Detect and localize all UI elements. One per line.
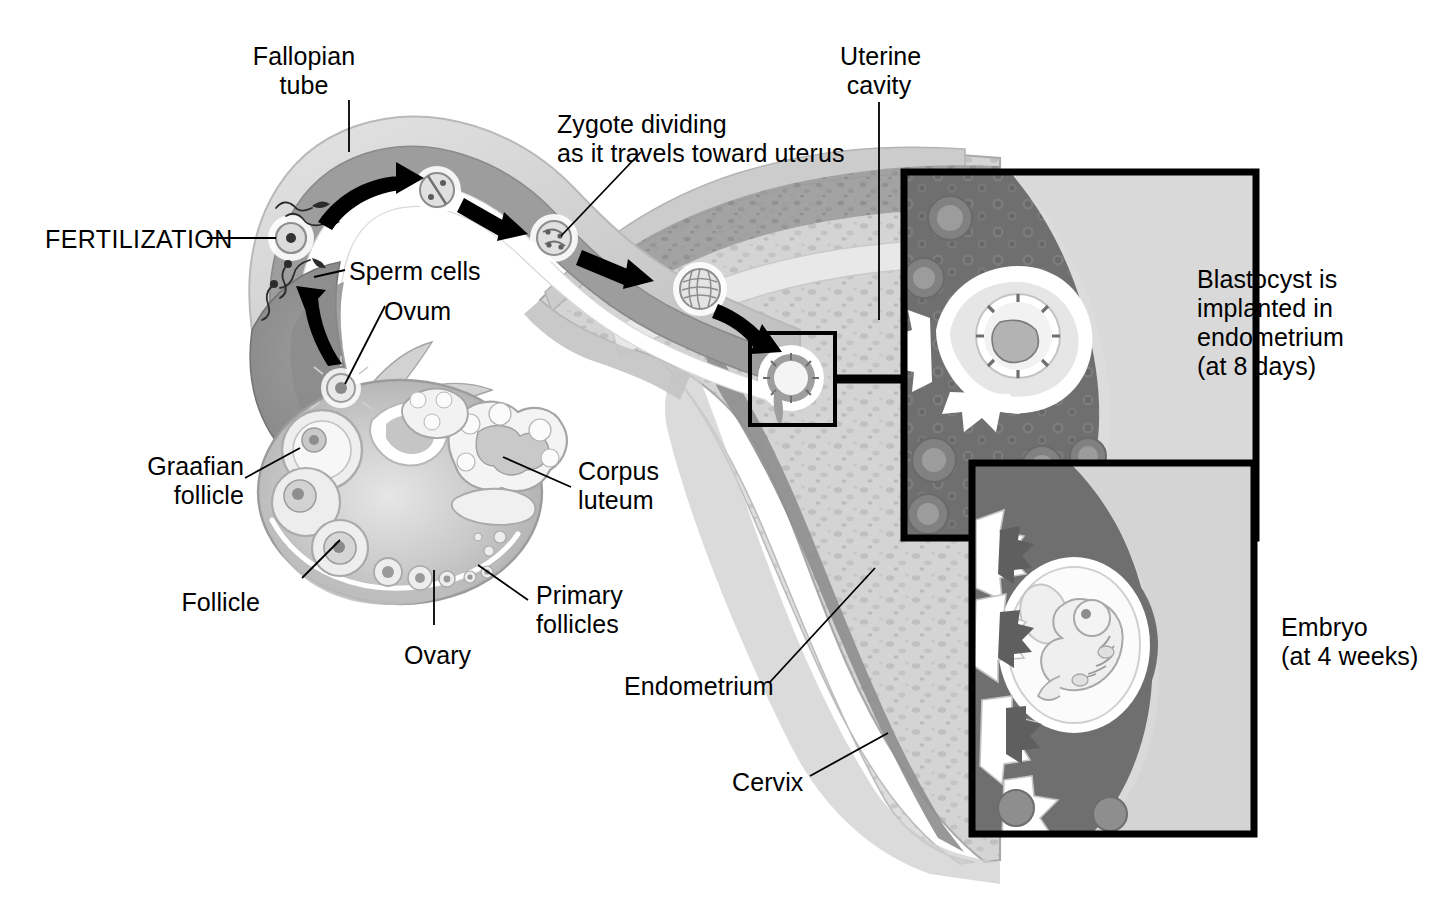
label-corpus-luteum: Corpus luteum xyxy=(578,457,659,515)
two-cell-stage xyxy=(413,166,461,214)
label-ovum: Ovum xyxy=(384,297,451,326)
label-endometrium: Endometrium xyxy=(624,672,774,701)
secondary-corpus-luteum xyxy=(402,389,468,439)
ovary-group xyxy=(258,380,567,605)
label-sperm-cells: Sperm cells xyxy=(349,257,481,286)
figure-canvas: FERTILIZATION Fallopian tube Zygote divi… xyxy=(0,0,1436,897)
label-fallopian-tube: Fallopian tube xyxy=(244,42,364,100)
label-graafian-follicle: Graafian follicle xyxy=(96,452,244,510)
leader-ovum xyxy=(345,306,385,384)
label-blastocyst-implanted: Blastocyst is implanted in endometrium (… xyxy=(1197,265,1344,381)
label-ovary: Ovary xyxy=(404,641,471,670)
follicle xyxy=(312,520,368,576)
four-cell-stage xyxy=(530,214,578,262)
label-zygote-dividing: Zygote dividing as it travels toward ute… xyxy=(557,110,845,168)
label-embryo-4-weeks: Embryo (at 4 weeks) xyxy=(1281,613,1418,671)
label-fertilization: FERTILIZATION xyxy=(45,225,233,254)
embryo-inset xyxy=(972,463,1254,858)
label-follicle: Follicle xyxy=(148,588,260,617)
label-primary-follicles: Primary follicles xyxy=(536,581,623,639)
label-uterine-cavity: Uterine cavity xyxy=(840,42,918,100)
label-cervix: Cervix xyxy=(732,768,803,797)
